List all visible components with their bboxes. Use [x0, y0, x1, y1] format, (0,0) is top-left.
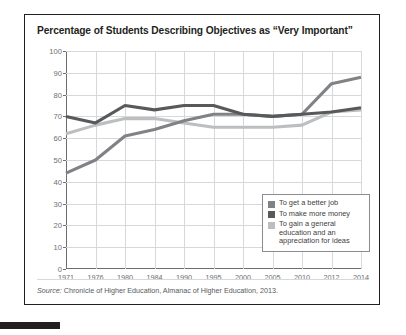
- chart-title: Percentage of Students Describing Object…: [37, 25, 369, 36]
- x-axis-tick-label: 2005: [264, 273, 280, 282]
- chart-legend: To get a better job To make more money T…: [262, 194, 370, 252]
- legend-swatch-better-job: [268, 201, 275, 208]
- legend-label-better-job: To get a better job: [279, 199, 338, 208]
- x-axis-tick-label: 2010: [294, 273, 310, 282]
- legend-label-general-education: To gain a general education and an appre…: [279, 220, 364, 246]
- series-line-0: [66, 77, 361, 173]
- x-axis-tick-label: 1995: [205, 273, 221, 282]
- page-footer-bar: [0, 322, 60, 329]
- legend-label-more-money: To make more money: [279, 210, 350, 219]
- legend-item: To gain a general education and an appre…: [268, 220, 364, 246]
- y-axis-tick-mark: [63, 269, 66, 270]
- legend-swatch-general-education: [268, 222, 275, 229]
- source-note: Source: Chronicle of Higher Education, A…: [37, 286, 367, 295]
- legend-item: To make more money: [268, 210, 364, 219]
- y-axis-tick-label: 10: [54, 243, 62, 252]
- plot-area: 0102030405060708090100 19711976198019841…: [66, 51, 361, 269]
- y-axis-tick-label: 30: [54, 199, 62, 208]
- x-axis-tick-label: 1990: [176, 273, 192, 282]
- legend-swatch-more-money: [268, 211, 275, 218]
- x-axis-tick-label: 2000: [235, 273, 251, 282]
- x-axis-tick-label: 1984: [146, 273, 162, 282]
- x-axis-tick-label: 2012: [323, 273, 339, 282]
- y-axis-tick-label: 80: [54, 90, 62, 99]
- source-divider: [37, 279, 367, 280]
- y-axis-tick-label: 70: [54, 112, 62, 121]
- source-label: Source:: [37, 286, 62, 295]
- y-axis-tick-label: 90: [54, 68, 62, 77]
- y-axis-tick-label: 20: [54, 221, 62, 230]
- x-axis-tick-label: 2014: [353, 273, 369, 282]
- x-axis-tick-label: 1980: [117, 273, 133, 282]
- y-axis-tick-label: 100: [49, 47, 62, 56]
- y-axis-tick-label: 50: [54, 156, 62, 165]
- x-axis-tick-label: 1976: [87, 273, 103, 282]
- chart-screenshot: Percentage of Students Describing Object…: [0, 0, 406, 335]
- chart-card: Percentage of Students Describing Object…: [24, 14, 380, 305]
- y-axis-tick-label: 60: [54, 134, 62, 143]
- source-text: Chronicle of Higher Education, Almanac o…: [62, 286, 278, 295]
- y-axis-tick-label: 40: [54, 177, 62, 186]
- x-axis-tick-label: 1971: [58, 273, 74, 282]
- legend-item: To get a better job: [268, 199, 364, 208]
